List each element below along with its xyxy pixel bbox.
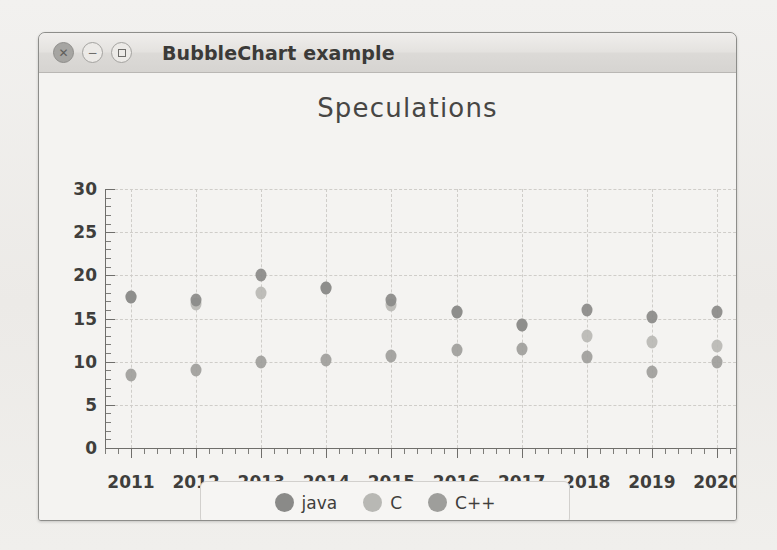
minimize-icon[interactable]: −	[82, 42, 103, 63]
window-titlebar[interactable]: ✕ − BubbleChart example	[39, 33, 736, 73]
x-tick-major	[131, 449, 132, 458]
data-point-cpp	[646, 366, 657, 379]
y-tick-minor	[106, 422, 111, 423]
x-tick-minor	[470, 449, 471, 454]
gridline-horizontal	[105, 319, 737, 320]
x-tick-minor	[730, 449, 731, 454]
x-tick-minor	[548, 449, 549, 454]
data-point-cpp	[516, 342, 527, 355]
y-tick-minor	[106, 310, 111, 311]
x-tick-major	[326, 449, 327, 458]
data-point-c	[256, 286, 267, 299]
y-tick-label: 0	[85, 438, 97, 458]
x-tick-minor	[535, 449, 536, 454]
maximize-icon[interactable]	[111, 42, 132, 63]
y-tick-minor	[106, 388, 111, 389]
data-point-java	[256, 269, 267, 282]
gridline-vertical	[261, 189, 262, 448]
y-axis-labels: 051015202530	[39, 189, 97, 449]
legend-item[interactable]: C++	[428, 493, 495, 513]
y-tick-label: 30	[73, 179, 97, 199]
x-tick-minor	[157, 449, 158, 454]
legend-label: C++	[455, 493, 495, 513]
x-tick-minor	[274, 449, 275, 454]
x-tick-major	[522, 449, 523, 458]
y-tick-minor	[106, 293, 111, 294]
y-tick-minor	[106, 258, 111, 259]
x-tick-minor	[313, 449, 314, 454]
y-tick-label: 5	[85, 395, 97, 415]
gridline-vertical	[391, 189, 392, 448]
x-tick-minor	[444, 449, 445, 454]
x-tick-major	[652, 449, 653, 458]
x-tick-minor	[144, 449, 145, 454]
y-tick-minor	[106, 431, 111, 432]
y-tick-minor	[106, 413, 111, 414]
y-tick-label: 25	[73, 222, 97, 242]
legend-item[interactable]: C	[363, 493, 402, 513]
x-tick-minor	[209, 449, 210, 454]
x-tick-minor	[222, 449, 223, 454]
gridline-vertical	[457, 189, 458, 448]
chart-title: Speculations	[39, 93, 736, 123]
y-tick-major	[106, 319, 115, 320]
y-tick-major	[106, 405, 115, 406]
x-tick-minor	[378, 449, 379, 454]
x-axis	[105, 448, 737, 449]
x-tick-major	[261, 449, 262, 458]
data-point-cpp	[256, 355, 267, 368]
gridline-vertical	[587, 189, 588, 448]
y-tick-label: 15	[73, 309, 97, 329]
data-point-java	[646, 310, 657, 323]
x-tick-minor	[170, 449, 171, 454]
y-tick-minor	[106, 206, 111, 207]
gridline-horizontal	[105, 189, 737, 190]
data-point-c	[646, 335, 657, 348]
x-tick-minor	[626, 449, 627, 454]
gridline-vertical	[131, 189, 132, 448]
window-client-area: Speculations 051015202530 20112012201320…	[39, 73, 736, 521]
x-tick-major	[457, 449, 458, 458]
y-tick-minor	[106, 327, 111, 328]
close-glyph: ✕	[58, 47, 68, 59]
y-tick-minor	[106, 336, 111, 337]
data-point-cpp	[321, 353, 332, 366]
x-tick-major	[391, 449, 392, 458]
x-tick-minor	[613, 449, 614, 454]
x-tick-minor	[509, 449, 510, 454]
y-tick-major	[106, 189, 115, 190]
y-tick-minor	[106, 370, 111, 371]
x-tick-minor	[678, 449, 679, 454]
data-point-java	[711, 306, 722, 319]
y-tick-minor	[106, 224, 111, 225]
x-tick-minor	[339, 449, 340, 454]
x-tick-minor	[665, 449, 666, 454]
y-tick-label: 10	[73, 352, 97, 372]
x-tick-minor	[417, 449, 418, 454]
y-tick-minor	[106, 396, 111, 397]
y-axis	[105, 189, 106, 449]
legend-item[interactable]: java	[275, 493, 338, 513]
x-tick-minor	[287, 449, 288, 454]
data-point-cpp	[711, 355, 722, 368]
x-tick-minor	[235, 449, 236, 454]
y-tick-major	[106, 275, 115, 276]
x-tick-minor	[183, 449, 184, 454]
x-tick-label: 2019	[628, 472, 675, 492]
x-tick-minor	[248, 449, 249, 454]
gridline-vertical	[326, 189, 327, 448]
data-point-java	[386, 293, 397, 306]
x-tick-minor	[352, 449, 353, 454]
data-point-java	[451, 305, 462, 318]
legend-swatch-icon	[428, 493, 447, 512]
chart-legend: javaCC++	[200, 481, 570, 521]
data-point-cpp	[451, 344, 462, 357]
data-point-java	[321, 282, 332, 295]
x-tick-minor	[639, 449, 640, 454]
gridline-horizontal	[105, 232, 737, 233]
x-tick-minor	[118, 449, 119, 454]
close-icon[interactable]: ✕	[53, 42, 74, 63]
data-point-cpp	[191, 364, 202, 377]
gridline-horizontal	[105, 362, 737, 363]
y-tick-major	[106, 362, 115, 363]
